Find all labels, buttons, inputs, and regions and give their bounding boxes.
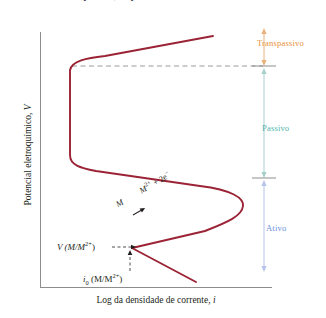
transpassivo-arrow-up-icon xyxy=(261,28,266,34)
ativo-arrow-up-icon xyxy=(261,180,266,186)
corrosion-potential-end: ) xyxy=(92,242,95,252)
corrosion-potential-text: V (M/M xyxy=(57,242,85,252)
polarization-curve-figure: Potencial eletroquímico, V Log da densid… xyxy=(0,0,326,318)
passivo-arrow-down-icon xyxy=(261,172,266,178)
corrosion-potential-charge: 2+ xyxy=(85,240,92,247)
reaction-arrow-head-icon xyxy=(140,206,147,213)
exchange-current-label: i0 (M/M2+) xyxy=(83,272,122,286)
polarization-curve-upper xyxy=(70,36,243,248)
reaction-arrow-group xyxy=(132,206,147,217)
region-label-transpassivo: Transpassivo xyxy=(257,38,304,48)
region-label-ativo: Ativo xyxy=(266,223,286,233)
corrosion-potential-label: V (M/M2+) xyxy=(57,240,95,252)
region-label-passivo: Passivo xyxy=(262,123,289,133)
i0-label-arrowhead-icon xyxy=(128,250,133,255)
polarization-curve-cathodic-branch xyxy=(132,248,196,282)
exchange-current-rest: (M/M xyxy=(89,274,113,284)
passivo-arrow-up-icon xyxy=(261,68,266,74)
exchange-current-end: ) xyxy=(119,274,122,284)
transpassivo-arrow-down-icon xyxy=(261,60,266,66)
ativo-arrow-down-icon xyxy=(261,266,266,272)
